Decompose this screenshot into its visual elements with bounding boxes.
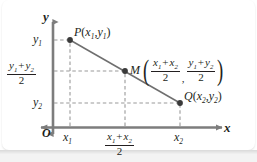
x-mid-num-plus: + (116, 130, 122, 142)
figure-root: y x O P(x1,y1) Q(x2,y2) M ( x1+x2 2 , y1… (0, 0, 257, 162)
m-x-num-x1-sub: 1 (158, 63, 161, 70)
y-tick-y2-sub: 2 (38, 102, 42, 111)
point-m-paren-open: ( (143, 56, 149, 85)
y-mid-fraction-denominator: 2 (7, 75, 36, 87)
m-y-fraction-numerator: y1+y2 (187, 57, 216, 72)
point-m-paren-close: ) (217, 56, 223, 85)
m-y-fraction: y1+y2 2 (187, 57, 216, 83)
y-tick-y1-sub: 1 (38, 39, 42, 48)
x-tick-x2-sub: 2 (179, 137, 183, 146)
y-mid-fraction: y1+y2 2 (7, 60, 36, 86)
origin-label: O (42, 127, 51, 139)
point-q-name: Q (184, 89, 193, 103)
point-q-label: Q(x2,y2) (184, 90, 222, 105)
y-axis-label: y (43, 10, 49, 23)
y-tick-label-y2: y2 (33, 96, 42, 111)
x-tick-x1-sub: 1 (68, 137, 72, 146)
m-y-num-plus: + (198, 56, 204, 68)
point-m (122, 68, 128, 74)
y-tick-label-y1: y1 (33, 33, 42, 48)
m-y-fraction-denominator: 2 (187, 72, 216, 84)
point-p-paren-close: ) (106, 25, 110, 39)
point-p (67, 37, 73, 43)
x-tick-label-xmid: x1+x2 2 (105, 131, 134, 157)
x-mid-fraction: x1+x2 2 (105, 131, 134, 157)
point-m-comma: , (182, 73, 185, 85)
y-tick-label-ymid: y1+y2 2 (7, 60, 36, 86)
m-x-fraction-numerator: x1+x2 (151, 57, 180, 72)
y-mid-fraction-numerator: y1+y2 (7, 60, 36, 75)
x-mid-num-b-sub: 2 (128, 137, 131, 144)
x-mid-num-a-sub: 1 (112, 137, 115, 144)
m-y-num-y1-sub: 1 (193, 63, 196, 70)
m-y-num-y2-sub: 2 (210, 63, 213, 70)
y-mid-num-b-sub: 2 (30, 66, 33, 73)
x-mid-fraction-denominator: 2 (105, 146, 134, 158)
point-m-name: M (130, 64, 140, 76)
m-x-fraction: x1+x2 2 (151, 57, 180, 83)
point-q (177, 100, 183, 106)
x-mid-fraction-numerator: x1+x2 (105, 131, 134, 146)
m-x-num-x2-sub: 2 (174, 63, 177, 70)
x-axis-label: x (224, 121, 231, 134)
m-x-fraction-denominator: 2 (151, 72, 180, 84)
x-tick-label-x2: x2 (174, 131, 183, 146)
m-x-num-plus: + (162, 56, 168, 68)
y-mid-num-a-sub: 1 (14, 66, 17, 73)
point-q-paren-close: ) (218, 89, 222, 103)
x-tick-label-x1: x1 (63, 131, 72, 146)
point-m-label: M ( x1+x2 2 , y1+y2 2 ) (130, 56, 225, 85)
y-mid-num-plus: + (18, 59, 24, 71)
point-p-label: P(x1,y1) (74, 26, 110, 41)
